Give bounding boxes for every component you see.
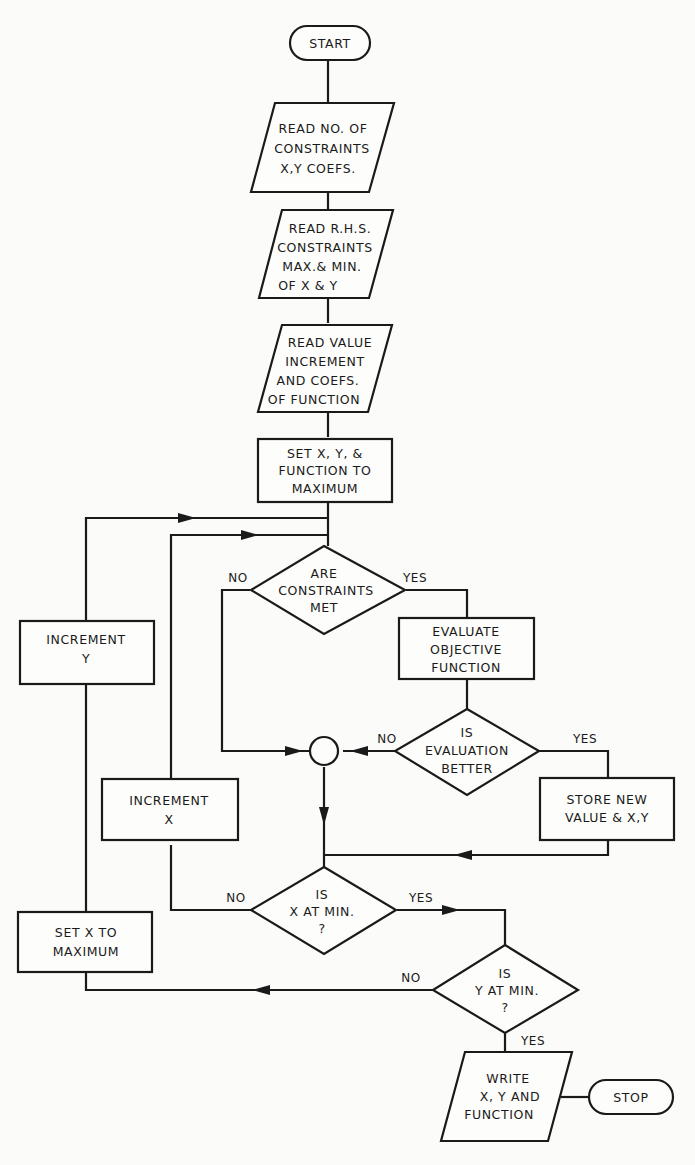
edge-label-no: NO	[228, 571, 247, 585]
edge-label-yes: YES	[520, 1034, 545, 1048]
node-label: FUNCTION	[431, 660, 501, 675]
node-label: START	[309, 36, 351, 51]
node-label: EVALUATION	[425, 743, 509, 758]
node-label: ARE	[311, 566, 338, 581]
node-label: CONSTRAINTS	[278, 583, 373, 598]
set-xy-process: SET X, Y, & FUNCTION TO MAXIMUM	[258, 439, 392, 502]
node-label: WRITE	[486, 1071, 529, 1086]
arrow-right-icon	[241, 530, 259, 540]
node-label: IS	[499, 966, 512, 981]
junction-connector	[310, 737, 338, 765]
read-constraints-input: READ NO. OF CONSTRAINTS X,Y COEFS.	[251, 103, 394, 192]
node-label: Y AT MIN.	[474, 983, 539, 998]
x-at-min-decision: IS X AT MIN. ?	[251, 867, 396, 954]
node-label: SET X TO	[55, 925, 117, 940]
edge-label-no: NO	[377, 732, 396, 746]
node-label: INCREMENT	[129, 793, 208, 808]
node-label: OBJECTIVE	[430, 642, 502, 657]
arrow-left-icon	[454, 850, 472, 860]
increment-x-process: INCREMENT X	[102, 779, 238, 840]
flowchart: START READ NO. OF CONSTRAINTS X,Y COEFS.…	[0, 0, 695, 1165]
node-label: Y	[81, 651, 90, 666]
node-label: READ R.H.S.	[289, 221, 372, 236]
y-at-min-decision: IS Y AT MIN. ?	[433, 945, 578, 1033]
arrow-down-icon	[319, 807, 329, 825]
node-label: VALUE & X,Y	[565, 810, 649, 825]
stop-terminator: STOP	[589, 1080, 673, 1114]
node-label: X,Y COEFS.	[280, 161, 356, 176]
arrow-left-icon	[350, 746, 368, 756]
node-label: MAXIMUM	[53, 944, 120, 959]
node-label: MAXIMUM	[292, 481, 359, 496]
node-label: EVALUATE	[432, 624, 500, 639]
node-label: FUNCTION	[464, 1107, 534, 1122]
node-label: AND COEFS.	[277, 373, 360, 388]
node-label: ?	[501, 1000, 508, 1015]
evaluation-better-decision: IS EVALUATION BETTER	[395, 709, 539, 795]
node-label: SET X, Y, &	[287, 446, 363, 461]
arrow-left-icon	[252, 985, 270, 995]
edge-label-no: NO	[226, 891, 245, 905]
node-label: MAX.& MIN.	[282, 259, 361, 274]
read-value-input: READ VALUE INCREMENT AND COEFS. OF FUNCT…	[258, 325, 392, 412]
edge-label-no: NO	[401, 971, 420, 985]
node-label: BETTER	[441, 761, 493, 776]
node-label: OF X & Y	[278, 278, 338, 293]
evaluate-process: EVALUATE OBJECTIVE FUNCTION	[399, 618, 534, 679]
node-label: X AT MIN.	[290, 904, 355, 919]
node-label: ?	[318, 921, 325, 936]
node-label: READ VALUE	[288, 335, 372, 350]
node-label: X, Y AND	[480, 1089, 540, 1104]
node-label: CONSTRAINTS	[274, 141, 369, 156]
node-label: CONSTRAINTS	[277, 240, 372, 255]
node-label: READ NO. OF	[279, 121, 368, 136]
read-rhs-input: READ R.H.S. CONSTRAINTS MAX.& MIN. OF X …	[259, 210, 393, 298]
write-output: WRITE X, Y AND FUNCTION	[441, 1052, 572, 1141]
increment-y-process: INCREMENT Y	[20, 621, 154, 684]
node-label: FUNCTION TO	[279, 463, 372, 478]
arrow-right-icon	[442, 905, 460, 915]
arrow-right-icon	[178, 513, 196, 523]
edge-label-yes: YES	[402, 571, 427, 585]
edge-label-yes: YES	[572, 732, 597, 746]
node-label: INCREMENT	[46, 632, 125, 647]
node-label: STOP	[613, 1090, 648, 1105]
set-x-max-process: SET X TO MAXIMUM	[18, 912, 152, 972]
node-label: X	[164, 812, 173, 827]
start-terminator: START	[290, 26, 370, 60]
node-label: STORE NEW	[567, 792, 648, 807]
constraints-met-decision: ARE CONSTRAINTS MET	[251, 546, 405, 634]
node-label: IS	[461, 725, 474, 740]
edge-label-yes: YES	[408, 891, 433, 905]
store-process: STORE NEW VALUE & X,Y	[540, 778, 674, 840]
node-label: INCREMENT	[285, 354, 364, 369]
node-label: IS	[316, 887, 329, 902]
node-label: MET	[310, 600, 338, 615]
arrow-right-icon	[285, 746, 303, 756]
node-label: OF FUNCTION	[268, 392, 361, 407]
